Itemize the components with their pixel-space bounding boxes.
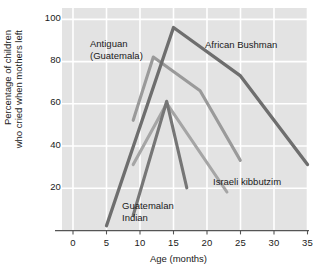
y-tick-label-100: 100 [36, 12, 61, 23]
x-axis-title: Age (months) [150, 253, 207, 264]
y-tick-label-20: 20 [36, 181, 61, 192]
annotation-guatemalan-indian: Guatemalan Indian [122, 200, 174, 223]
annotation-guatemalan-indian-line-1: Guatemalan [122, 200, 174, 212]
x-axis-spine [55, 231, 309, 235]
annotation-israeli-kibbutzim: Israeli kibbutzim [213, 176, 281, 188]
y-tick-label-60: 60 [36, 96, 61, 107]
x-tick-label-35: 35 [298, 237, 317, 248]
annotation-african-bushman: African Bushman [205, 39, 277, 51]
y-axis-title-line-2: who cried when mothers left [13, 30, 24, 148]
annotation-antiguan-line-1: Antiguan [90, 38, 143, 50]
x-tick-label-25: 25 [231, 237, 251, 248]
annotation-israeli-kibbutzim-line-1: Israeli kibbutzim [213, 176, 281, 188]
y-axis-title-line-1: Percentage of children [2, 30, 13, 125]
chart-figure: 100 80 60 40 20 0 5 10 15 20 25 30 35 Ag… [0, 0, 316, 272]
x-tick-label-20: 20 [197, 237, 217, 248]
y-tick-label-80: 80 [36, 54, 61, 65]
x-tick-label-0: 0 [63, 237, 83, 248]
x-tick-label-30: 30 [264, 237, 284, 248]
x-tick-label-10: 10 [130, 237, 150, 248]
annotation-antiguan-line-2: (Guatemala) [90, 50, 143, 62]
y-axis-title: Percentage of children who cried when mo… [2, 30, 24, 220]
y-tick-label-40: 40 [36, 139, 61, 150]
x-tick-label-5: 5 [97, 237, 117, 248]
annotation-antiguan-guatemala: Antiguan (Guatemala) [90, 38, 143, 61]
annotation-african-bushman-line-1: African Bushman [205, 39, 277, 51]
x-tick-label-15: 15 [164, 237, 184, 248]
annotation-guatemalan-indian-line-2: Indian [122, 212, 174, 224]
